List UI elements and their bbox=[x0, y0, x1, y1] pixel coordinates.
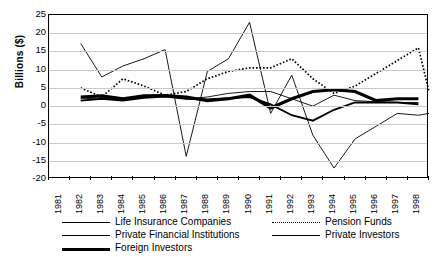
grid-line bbox=[49, 33, 427, 34]
y-tick-label: -5 bbox=[20, 118, 46, 128]
x-tick-mark bbox=[259, 176, 260, 180]
grid-line bbox=[49, 161, 427, 162]
series-line bbox=[81, 48, 429, 97]
x-axis-ticks: 1981198219831984198519861987198819891990… bbox=[48, 180, 428, 214]
x-tick-mark bbox=[217, 176, 218, 180]
legend-label: Life Insurance Companies bbox=[115, 216, 231, 227]
y-tick-label: 10 bbox=[20, 64, 46, 74]
x-tick-mark bbox=[132, 176, 133, 180]
x-tick-mark bbox=[196, 176, 197, 180]
grid-line bbox=[49, 143, 427, 144]
legend-item: Life Insurance Companies bbox=[62, 216, 231, 227]
x-tick-mark bbox=[386, 176, 387, 180]
y-tick-label: 25 bbox=[20, 9, 46, 19]
y-tick-label: -20 bbox=[20, 173, 46, 183]
legend-label: Private Investors bbox=[325, 229, 399, 240]
x-tick-mark bbox=[344, 176, 345, 180]
grid-line bbox=[49, 88, 427, 89]
grid-line bbox=[49, 70, 427, 71]
x-tick-mark bbox=[90, 176, 91, 180]
legend-swatch-icon bbox=[62, 243, 110, 253]
legend-swatch-icon bbox=[62, 217, 110, 227]
plot-area bbox=[48, 14, 428, 178]
x-tick-mark bbox=[175, 176, 176, 180]
chart-root: Billions ($) 2520151050-5-10-15-20 19811… bbox=[0, 0, 444, 257]
y-tick-label: -15 bbox=[20, 155, 46, 165]
series-lines bbox=[49, 15, 429, 179]
legend-item: Pension Funds bbox=[272, 216, 392, 227]
grid-line bbox=[49, 51, 427, 52]
legend-item: Private Investors bbox=[272, 229, 399, 240]
legend-item: Foreign Investors bbox=[62, 242, 192, 253]
x-tick-mark bbox=[428, 176, 429, 180]
legend-swatch-icon bbox=[62, 230, 110, 240]
x-tick-label: 1998 bbox=[412, 180, 444, 214]
y-tick-label: 20 bbox=[20, 27, 46, 37]
x-tick-mark bbox=[301, 176, 302, 180]
x-tick-mark bbox=[111, 176, 112, 180]
x-tick-mark bbox=[365, 176, 366, 180]
series-line bbox=[81, 97, 419, 121]
legend-label: Foreign Investors bbox=[115, 242, 192, 253]
x-tick-mark bbox=[69, 176, 70, 180]
legend-label: Private Financial Institutions bbox=[115, 229, 240, 240]
x-tick-mark bbox=[407, 176, 408, 180]
x-tick-mark bbox=[322, 176, 323, 180]
y-tick-label: 15 bbox=[20, 45, 46, 55]
grid-line bbox=[49, 124, 427, 125]
legend-swatch-icon bbox=[272, 230, 320, 240]
y-tick-label: 5 bbox=[20, 82, 46, 92]
series-line bbox=[81, 22, 429, 168]
y-tick-label: 0 bbox=[20, 100, 46, 110]
y-tick-label: -10 bbox=[20, 137, 46, 147]
chart-legend: Life Insurance CompaniesPension FundsPri… bbox=[0, 214, 444, 257]
legend-swatch-icon bbox=[272, 217, 320, 227]
x-tick-mark bbox=[238, 176, 239, 180]
legend-item: Private Financial Institutions bbox=[62, 229, 240, 240]
legend-label: Pension Funds bbox=[325, 216, 392, 227]
grid-line bbox=[49, 106, 427, 107]
x-tick-mark bbox=[154, 176, 155, 180]
x-tick-mark bbox=[48, 176, 49, 180]
x-tick-mark bbox=[280, 176, 281, 180]
y-axis-ticks: 2520151050-5-10-15-20 bbox=[18, 0, 46, 200]
